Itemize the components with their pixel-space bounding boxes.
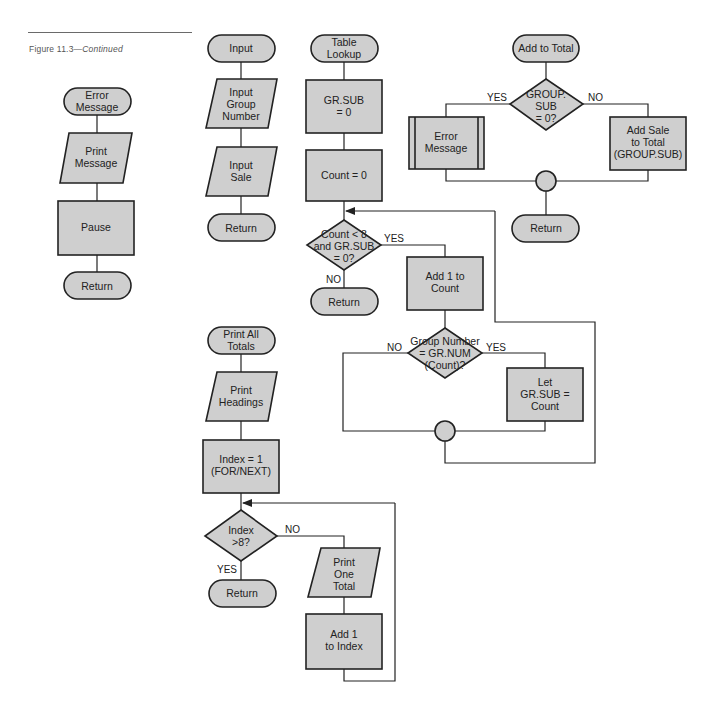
svg-text:= 0?: = 0?	[536, 112, 557, 124]
svg-text:GROUP.: GROUP.	[526, 88, 566, 100]
svg-text:SUB: SUB	[535, 100, 557, 112]
svg-text:Add to Total: Add to Total	[518, 42, 573, 54]
svg-text:Return: Return	[530, 222, 562, 234]
svg-text:Add 1: Add 1	[330, 628, 358, 640]
error-message-return-terminal: Return	[64, 272, 131, 299]
match-no-label: NO	[387, 342, 402, 353]
svg-text:Message: Message	[75, 157, 118, 169]
print-all-totals-module: Print All Totals Print Headings Index = …	[203, 327, 395, 681]
error-message-predefined-process: Error Message	[409, 117, 484, 169]
error-message-module: Error Message Print Message Pause Return	[58, 88, 134, 299]
svg-text:One: One	[334, 568, 354, 580]
svg-text:to Index: to Index	[325, 640, 363, 652]
input-return-terminal: Return	[208, 214, 275, 241]
svg-text:Index = 1: Index = 1	[219, 453, 263, 465]
svg-text:Count < 8: Count < 8	[321, 228, 367, 240]
svg-text:and GR.SUB: and GR.SUB	[314, 240, 375, 252]
index-decision: Index >8?	[205, 510, 277, 561]
group-sub-no-label: NO	[588, 92, 603, 103]
svg-text:(FOR/NEXT): (FOR/NEXT)	[211, 465, 271, 477]
add-to-total-return-terminal: Return	[512, 215, 579, 242]
svg-text:Group Number: Group Number	[410, 335, 480, 347]
init-count-process: Count = 0	[306, 150, 382, 201]
match-yes-label: YES	[486, 342, 506, 353]
print-all-totals-start-terminal: Print All Totals	[208, 327, 275, 354]
svg-text:(GROUP.SUB): (GROUP.SUB)	[614, 148, 683, 160]
svg-text:Error: Error	[434, 130, 458, 142]
count-decision-yes-label: YES	[384, 233, 404, 244]
print-one-total-io: Print One Total	[308, 548, 380, 597]
svg-text:Message: Message	[76, 101, 119, 113]
svg-text:= 0: = 0	[337, 106, 352, 118]
svg-text:Print All: Print All	[223, 328, 259, 340]
error-message-start-terminal: Error Message	[64, 88, 131, 115]
table-lookup-start-terminal: Table Lookup	[311, 35, 378, 62]
add-to-total-join-connector	[536, 171, 556, 191]
svg-text:= 0?: = 0?	[334, 252, 355, 264]
svg-text:Error: Error	[85, 89, 109, 101]
svg-text:Add Sale: Add Sale	[627, 124, 670, 136]
group-number-match-decision: Group Number = GR.NUM (Count)?	[408, 328, 482, 378]
group-sub-yes-label: YES	[487, 92, 507, 103]
add-one-to-index-process: Add 1 to Index	[306, 614, 382, 669]
svg-text:Total: Total	[333, 580, 355, 592]
svg-text:Pause: Pause	[81, 221, 111, 233]
table-lookup-return-terminal: Return	[311, 288, 378, 315]
count-decision: Count < 8 and GR.SUB = 0?	[307, 220, 381, 270]
svg-text:Table: Table	[331, 36, 356, 48]
input-start-terminal: Input	[208, 35, 275, 62]
count-decision-no-label: NO	[326, 274, 341, 285]
svg-text:Return: Return	[225, 222, 257, 234]
svg-text:Return: Return	[81, 280, 113, 292]
svg-text:GR.SUB: GR.SUB	[324, 94, 364, 106]
print-all-totals-return-terminal: Return	[209, 580, 276, 607]
svg-text:Message: Message	[425, 142, 468, 154]
svg-text:Group: Group	[226, 98, 255, 110]
svg-text:Return: Return	[226, 587, 258, 599]
svg-text:Count = 0: Count = 0	[321, 169, 367, 181]
svg-text:to Total: to Total	[631, 136, 665, 148]
svg-text:Number: Number	[222, 110, 260, 122]
svg-text:= GR.NUM: = GR.NUM	[419, 347, 471, 359]
add-to-total-start-terminal: Add to Total	[513, 35, 579, 62]
svg-text:(Count)?: (Count)?	[425, 359, 466, 371]
svg-text:Sale: Sale	[230, 171, 251, 183]
svg-text:Add 1 to: Add 1 to	[425, 270, 464, 282]
index-decision-yes-label: YES	[217, 564, 237, 575]
index-decision-no-label: NO	[285, 524, 300, 535]
svg-text:Headings: Headings	[219, 396, 263, 408]
print-headings-io: Print Headings	[206, 372, 277, 421]
flowchart-canvas: Error Message Print Message Pause Return…	[0, 0, 728, 709]
print-message-io: Print Message	[60, 133, 132, 183]
svg-text:Return: Return	[328, 296, 360, 308]
svg-text:Input: Input	[229, 42, 252, 54]
add-sale-to-total-process: Add Sale to Total (GROUP.SUB)	[610, 117, 686, 170]
svg-text:Totals: Totals	[227, 340, 254, 352]
svg-text:Count: Count	[431, 282, 459, 294]
input-sale-io: Input Sale	[206, 147, 277, 196]
set-gr-sub-process: Let GR.SUB = Count	[507, 368, 583, 421]
init-index-process: Index = 1 (FOR/NEXT)	[203, 440, 279, 493]
svg-text:Count: Count	[531, 400, 559, 412]
match-join-connector	[435, 421, 455, 441]
group-sub-decision: GROUP. SUB = 0?	[510, 79, 583, 130]
svg-text:Input: Input	[229, 159, 252, 171]
svg-text:Print: Print	[333, 556, 355, 568]
init-gr-sub-process: GR.SUB = 0	[306, 80, 382, 133]
svg-text:Print: Print	[230, 384, 252, 396]
input-module: Input Input Group Number Input Sale Retu…	[206, 35, 277, 241]
svg-text:Print: Print	[85, 145, 107, 157]
svg-text:>8?: >8?	[232, 536, 250, 548]
svg-text:GR.SUB =: GR.SUB =	[520, 388, 569, 400]
svg-text:Lookup: Lookup	[327, 48, 362, 60]
input-group-number-io: Input Group Number	[206, 79, 277, 128]
pause-process: Pause	[58, 201, 134, 255]
svg-text:Index: Index	[228, 524, 254, 536]
svg-text:Let: Let	[538, 376, 553, 388]
svg-text:Input: Input	[229, 86, 252, 98]
add-one-to-count-process: Add 1 to Count	[407, 257, 483, 310]
